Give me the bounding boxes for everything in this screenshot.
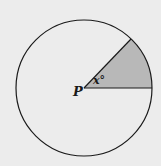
- figure-canvas: P x°: [0, 0, 161, 166]
- center-label: P: [72, 84, 84, 99]
- angle-label: x°: [92, 74, 105, 87]
- circle-diagram: P x°: [0, 0, 161, 166]
